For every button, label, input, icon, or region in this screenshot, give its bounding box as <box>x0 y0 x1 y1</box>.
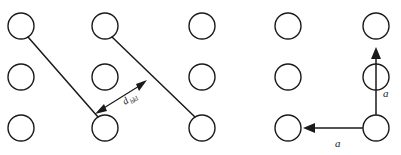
atom-circle <box>189 13 215 39</box>
d-spacing-label-group: d hkl <box>120 89 140 109</box>
atom-circle <box>275 13 301 39</box>
lattice-vector-vertical-arrowhead <box>371 47 381 59</box>
atom-circle <box>8 115 34 141</box>
lattice-vector-horizontal: a <box>303 123 363 149</box>
d-spacing-arrowhead-upper <box>136 80 147 91</box>
lattice-vector-horizontal-arrowhead <box>303 123 315 133</box>
lattice-vector-horizontal-label: a <box>335 137 341 149</box>
lattice-diagram-svg: d hkl a a <box>0 0 401 155</box>
atom-circle <box>92 115 118 141</box>
lattice-plane-line <box>28 37 98 117</box>
atom-circle <box>363 13 389 39</box>
atom-circle <box>189 115 215 141</box>
atom-circle <box>363 115 389 141</box>
atom-circle <box>189 64 215 90</box>
atom-grid <box>8 13 389 141</box>
atom-circle <box>92 64 118 90</box>
atom-circle <box>92 13 118 39</box>
lattice-vector-vertical-label: a <box>383 87 389 99</box>
lattice-figure: d hkl a a <box>0 0 401 155</box>
d-spacing-arrowhead-lower <box>95 104 107 114</box>
atom-circle <box>275 115 301 141</box>
d-spacing-label-subscript: hkl <box>128 95 140 106</box>
atom-circle <box>275 64 301 90</box>
atom-circle <box>8 64 34 90</box>
atom-circle <box>8 13 34 39</box>
